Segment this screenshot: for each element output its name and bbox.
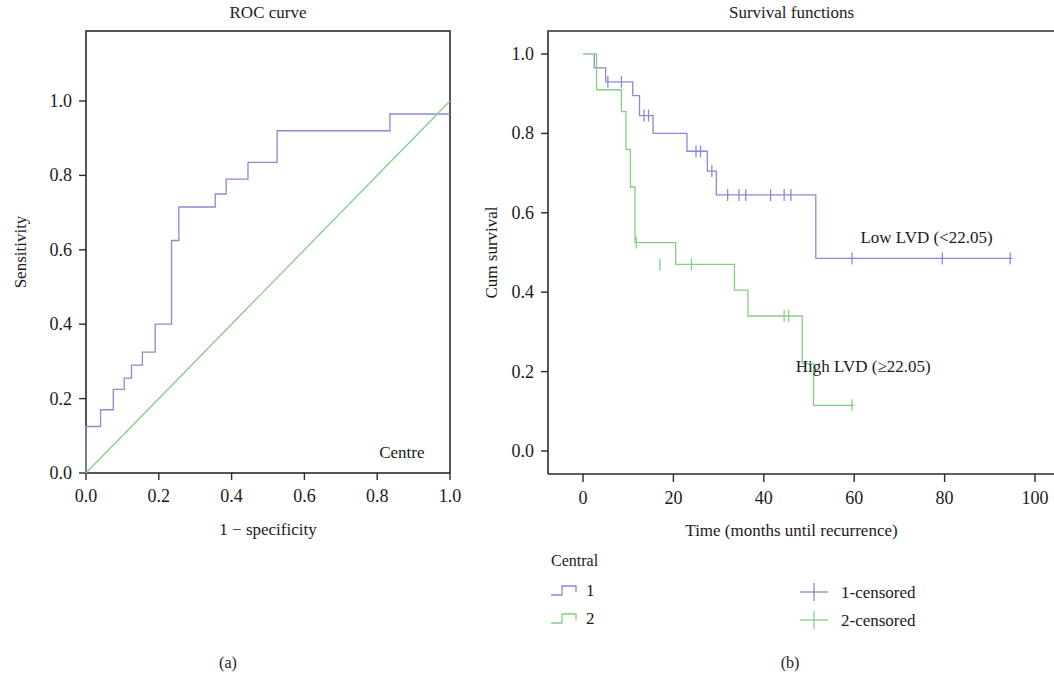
panel-a-ytick-label: 0.6 [50, 240, 73, 260]
panel-a-ytick-label: 0.2 [50, 389, 73, 409]
panel-b-xtick-label: 0 [579, 488, 588, 508]
panel-b-title: Survival functions [729, 3, 854, 22]
panel-a-xtick-label: 0.8 [366, 486, 389, 506]
figure-container: ROC curve0.00.20.40.60.81.00.00.20.40.60… [0, 0, 1054, 676]
panel-a-ytick-label: 0.4 [50, 314, 73, 334]
panel-a-xtick-label: 0.6 [293, 486, 316, 506]
panel-a-annotation: Centre [379, 443, 424, 462]
panel-b-xtick-label: 60 [845, 488, 863, 508]
panel-b-xtick-label: 80 [936, 488, 954, 508]
panel-a-ytick-label: 1.0 [50, 91, 73, 111]
legend-label-2-censored: 2-censored [841, 611, 916, 630]
panel-b-annotation-low-lvd: Low LVD (<22.05) [860, 228, 992, 247]
panel-b-curve [583, 54, 854, 405]
panel-a-xtick-label: 0.4 [220, 486, 243, 506]
panel-a-xtick-label: 0.0 [75, 486, 98, 506]
panel-b-xtick-label: 100 [1022, 488, 1049, 508]
legend-label-1-censored: 1-censored [841, 583, 916, 602]
panel-b-ytick-label: 0.2 [512, 362, 535, 382]
panel-a-xtick-label: 1.0 [439, 486, 462, 506]
panel-b-plot-frame [548, 31, 1054, 474]
panel-a-yaxis-label: Sensitivity [11, 215, 30, 288]
panel-b-ytick-label: 0.6 [512, 203, 535, 223]
panel-b-ytick-label: 0.4 [512, 282, 535, 302]
panel-b-xtick-label: 40 [755, 488, 773, 508]
panel-a-ytick-label: 0.8 [50, 165, 73, 185]
legend-label-2: 2 [586, 609, 595, 628]
legend-step-swatch-2 [551, 614, 576, 623]
panel-b-yaxis-label: Cum survival [482, 206, 501, 298]
panel-a-plot-frame [86, 31, 450, 473]
figure-svg: ROC curve0.00.20.40.60.81.00.00.20.40.60… [0, 0, 1054, 676]
panel-a-xaxis-label: 1 − specificity [219, 520, 317, 539]
panel-b-xaxis-label: Time (months until recurrence) [685, 521, 897, 540]
panel-a-curve [86, 101, 450, 473]
legend-title: Central [551, 552, 599, 569]
panel-b-annotation-high-lvd: High LVD (≥22.05) [796, 357, 931, 376]
subcaption-a: (a) [219, 654, 237, 672]
panel-a-curve [86, 114, 450, 473]
panel-a-ytick-label: 0.0 [50, 463, 73, 483]
legend-step-swatch-1 [551, 586, 576, 595]
panel-b-ytick-label: 0.8 [512, 123, 535, 143]
panel-b-xtick-label: 20 [664, 488, 682, 508]
panel-a-title: ROC curve [230, 3, 307, 22]
panel-b-ytick-label: 1.0 [512, 44, 535, 64]
legend-label-1: 1 [586, 581, 595, 600]
panel-a-xtick-label: 0.2 [148, 486, 171, 506]
subcaption-b: (b) [781, 654, 800, 672]
panel-b-ytick-label: 0.0 [512, 441, 535, 461]
